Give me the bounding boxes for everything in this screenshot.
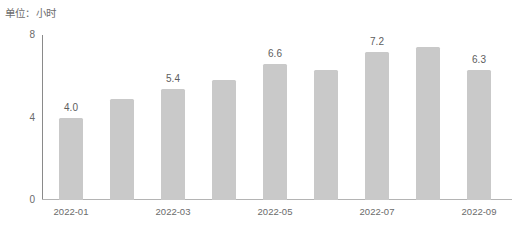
bar-group[interactable]	[416, 35, 440, 200]
bar-group[interactable]	[314, 35, 338, 200]
bar[interactable]	[263, 64, 287, 200]
bar[interactable]	[416, 47, 440, 200]
bar[interactable]	[212, 80, 236, 200]
bar-group[interactable]: 6.6	[263, 35, 287, 200]
bars-layer: 4.05.46.67.26.3	[42, 35, 512, 200]
bar-group[interactable]: 4.0	[59, 35, 83, 200]
bar-value-label: 6.6	[268, 48, 282, 59]
bar[interactable]	[59, 118, 83, 201]
bar[interactable]	[110, 99, 134, 200]
unit-caption: 单位：小时	[5, 7, 56, 20]
y-tick-label: 4	[29, 113, 35, 123]
bar[interactable]	[365, 52, 389, 201]
x-tick-label: 2022-09	[462, 206, 497, 218]
bar-value-label: 7.2	[370, 36, 384, 47]
x-tick-label: 2022-03	[156, 206, 191, 218]
bar[interactable]	[314, 70, 338, 200]
bar-chart-figure: 单位：小时 048 4.05.46.67.26.3 2022-012022-03…	[0, 0, 522, 233]
x-tick-label: 2022-05	[258, 206, 293, 218]
bar[interactable]	[161, 89, 185, 200]
bar-group[interactable]	[212, 35, 236, 200]
y-tick-label: 0	[29, 195, 35, 205]
x-tick-label: 2022-07	[360, 206, 395, 218]
bar-value-label: 4.0	[64, 102, 78, 113]
y-tick-label: 8	[29, 30, 35, 40]
bar-group[interactable]	[110, 35, 134, 200]
bar-value-label: 5.4	[166, 73, 180, 84]
x-tick-label: 2022-01	[54, 206, 89, 218]
bar-group[interactable]: 6.3	[467, 35, 491, 200]
bar-group[interactable]: 5.4	[161, 35, 185, 200]
bar-group[interactable]: 7.2	[365, 35, 389, 200]
plot-area: 048 4.05.46.67.26.3 2022-012022-032022-0…	[42, 35, 512, 200]
bar[interactable]	[467, 70, 491, 200]
bar-value-label: 6.3	[472, 54, 486, 65]
